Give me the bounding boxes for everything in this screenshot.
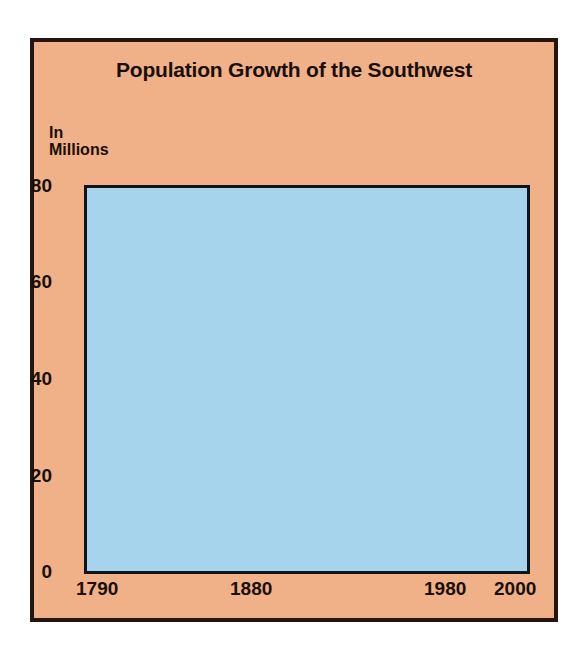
- x-tick-2000: 2000: [494, 578, 536, 600]
- y-axis-label: In Millions: [49, 124, 109, 158]
- plot-area-wrapper: [84, 185, 530, 574]
- x-tick-1790: 1790: [76, 578, 118, 600]
- y-tick-60: 60: [0, 271, 52, 293]
- y-tick-20: 20: [0, 465, 52, 487]
- y-tick-80: 80: [0, 175, 52, 197]
- page-title: Population Growth of the Southwest: [34, 58, 554, 82]
- x-tick-1880: 1880: [230, 578, 272, 600]
- plot-area: [84, 185, 530, 574]
- x-tick-1980: 1980: [424, 578, 466, 600]
- y-tick-40: 40: [0, 368, 52, 390]
- y-tick-0: 0: [0, 561, 52, 583]
- chart-figure: Population Growth of the Southwest In Mi…: [30, 38, 558, 622]
